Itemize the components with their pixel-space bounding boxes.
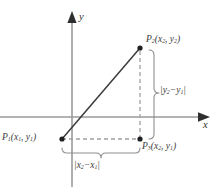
point-label-p2: P2(x2, y2) xyxy=(146,35,180,45)
point-dot-p1 xyxy=(59,136,64,141)
vertical-measure-label: |y2−y1| xyxy=(160,86,186,96)
point-dot-p2 xyxy=(137,45,142,50)
distance-formula-figure: P1(x1, y1) P2(x2, y2) P3(x2, y1) |y2−y1|… xyxy=(0,0,220,187)
dx-close-bar: | xyxy=(97,160,100,170)
p2-close-paren: ) xyxy=(177,34,180,44)
horizontal-measure-brace xyxy=(62,148,140,158)
point-label-p1: P1(x1, y1) xyxy=(2,133,36,143)
y-axis-arrowhead-icon xyxy=(67,11,76,23)
y-axis-label: y xyxy=(79,12,84,23)
x-axis-label: x xyxy=(203,120,208,131)
hypotenuse-line xyxy=(62,48,140,139)
point-label-p3: P3(x2, y1) xyxy=(142,142,176,152)
figure-canvas xyxy=(0,0,220,187)
vertical-measure-brace xyxy=(149,50,159,139)
p3-close-paren: ) xyxy=(173,141,176,151)
horizontal-measure-label: |x2−x1| xyxy=(74,161,100,171)
p1-close-paren: ) xyxy=(33,132,36,142)
dy-close-bar: | xyxy=(183,85,186,95)
